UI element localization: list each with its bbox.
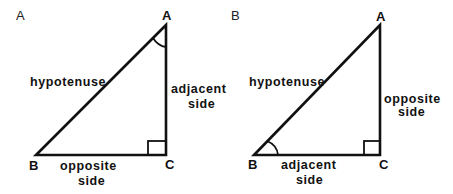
panel-a: A A B C hypotenuse adjacent side opposit… bbox=[16, 8, 227, 188]
right-angle-marker-a bbox=[148, 141, 166, 155]
diagram-canvas: A A B C hypotenuse adjacent side opposit… bbox=[0, 0, 453, 194]
hypotenuse-label-b: hypotenuse bbox=[249, 75, 325, 89]
vertical-side-label-b-line2: side bbox=[398, 105, 425, 119]
vertical-side-label-a-line1: adjacent bbox=[171, 82, 227, 96]
vertex-label-a-bottom-left: B bbox=[29, 158, 38, 173]
vertex-label-b-bottom-right: C bbox=[379, 157, 389, 172]
vertex-label-b-bottom-left: B bbox=[248, 157, 257, 172]
horizontal-side-label-b-line2: side bbox=[296, 173, 323, 187]
vertex-label-a-bottom-right: C bbox=[165, 157, 175, 172]
panel-b: B A B C hypotenuse opposite side adjacen… bbox=[231, 8, 441, 187]
panel-label-b: B bbox=[231, 8, 240, 23]
horizontal-side-label-a-line1: opposite bbox=[60, 159, 117, 173]
horizontal-side-label-a-line2: side bbox=[78, 174, 105, 188]
right-triangle-b bbox=[254, 25, 380, 155]
horizontal-side-label-b-line1: adjacent bbox=[281, 158, 337, 172]
right-triangle-a bbox=[36, 25, 166, 155]
angle-arc-at-b bbox=[267, 141, 278, 155]
vertical-side-label-a-line2: side bbox=[188, 97, 215, 111]
vertical-side-label-b-line1: opposite bbox=[384, 92, 441, 106]
vertex-label-b-top: A bbox=[376, 9, 386, 24]
panel-label-a: A bbox=[16, 8, 25, 23]
right-angle-marker-b bbox=[364, 141, 380, 155]
angle-arc-at-a bbox=[153, 38, 166, 47]
hypotenuse-label-a: hypotenuse bbox=[30, 75, 106, 89]
vertex-label-a-top: A bbox=[162, 8, 172, 23]
